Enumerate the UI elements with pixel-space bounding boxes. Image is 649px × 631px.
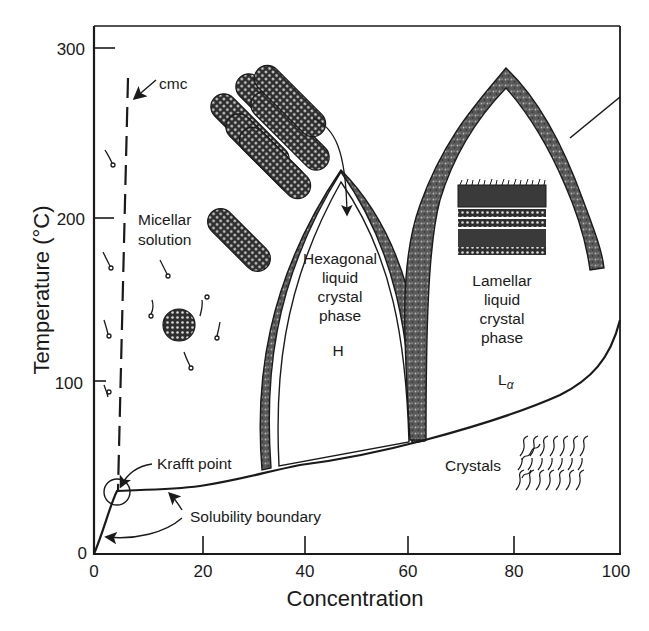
svg-text:liquid: liquid [484,291,520,308]
crystal-molecules-icon [516,436,588,490]
y-tick-label: 0 [78,544,87,563]
svg-text:liquid: liquid [322,269,358,286]
x-tick-label: 80 [505,562,524,581]
y-tick-label: 200 [57,210,85,229]
x-axis-ticks [203,536,514,554]
x-tick-label: 40 [296,562,315,581]
y-axis-title: Temperature (°C) [29,206,54,375]
lamellar-bilayer-icon [458,179,546,255]
solubility-arrow-lower [107,518,182,538]
cmc-arrow [135,80,156,98]
x-tick-label: 100 [602,562,630,581]
svg-text:phase: phase [319,307,361,324]
x-tick-label: 60 [399,562,418,581]
y-tick-label: 300 [57,40,85,59]
cmc-line [118,78,128,490]
svg-text:crystal: crystal [318,288,363,305]
micellar-label-line2: solution [138,231,191,248]
x-tick-label: 20 [194,562,213,581]
solubility-arrow-upper [170,494,182,510]
hexagonal-symbol: H [332,342,343,359]
upper-right-boundary [570,97,620,138]
x-axis-title: Concentration [287,586,424,611]
lamellar-phase-label: Lamellar liquid crystal phase Lα [472,272,531,392]
svg-text:Hexagonal: Hexagonal [303,250,377,267]
krafft-point-label: Krafft point [157,455,232,472]
y-axis-ticks [94,48,115,381]
lamellar-symbol: Lα [498,371,515,392]
svg-text:phase: phase [481,329,523,346]
phase-diagram: 300 200 100 0 0 20 40 60 80 100 Concentr… [0,0,649,631]
crystals-label: Crystals [445,457,501,474]
spherical-micelle-icon [163,309,195,341]
cmc-label: cmc [159,75,188,92]
svg-text:Lamellar: Lamellar [472,272,531,289]
solubility-boundary-label: Solubility boundary [190,508,321,525]
svg-text:crystal: crystal [480,310,525,327]
hexagonal-phase-inner [278,182,409,466]
surfactant-monomer-icons [103,150,220,397]
x-tick-label: 0 [89,562,98,581]
cylindrical-micelle-icon [202,203,276,277]
y-tick-label: 100 [55,374,83,393]
hexagonal-bundle-icon [205,60,334,204]
micellar-label-line1: Micellar [138,211,191,228]
